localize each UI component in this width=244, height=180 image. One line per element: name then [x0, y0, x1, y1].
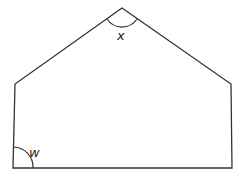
bottom-left-angle-label: w — [29, 145, 40, 160]
pentagon-diagram: x w — [0, 0, 244, 180]
apex-angle-label: x — [116, 28, 125, 43]
apex-angle-arc — [107, 19, 137, 27]
